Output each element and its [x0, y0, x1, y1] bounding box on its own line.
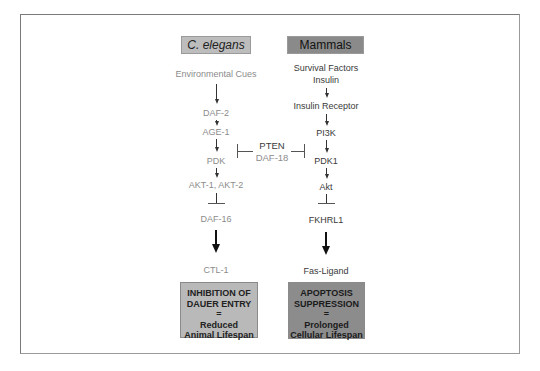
node-age-1: AGE-1 [202, 127, 229, 138]
outcome-line: Cellular Lifespan [289, 330, 364, 341]
node-fkhrl1: FKHRL1 [309, 215, 344, 226]
inhibit-line [216, 193, 217, 203]
node-daf-16: DAF-16 [200, 214, 231, 225]
arrow-down-icon [215, 99, 219, 104]
outcome-line: = [289, 309, 364, 320]
outcome-line: Reduced [181, 320, 257, 331]
inhibitor-daf-18: DAF-18 [256, 152, 289, 163]
arrow-down-icon [215, 121, 219, 126]
node-insulin: Insulin [313, 75, 339, 86]
arrow-down-icon [325, 148, 329, 153]
node-akt-1-akt-2: AKT-1, AKT-2 [189, 180, 244, 191]
node-insulin-receptor: Insulin Receptor [293, 101, 358, 112]
outcome-line: = [181, 309, 257, 320]
node-pdk: PDK [207, 156, 226, 167]
outcome-line: Prolonged [289, 320, 364, 331]
arrow-line [216, 84, 217, 100]
arrow-down-icon [215, 173, 219, 178]
arrow-down-icon [325, 93, 329, 98]
strong-arrow-down-icon [322, 246, 330, 255]
inhibit-bar-icon [318, 203, 335, 204]
node-fas-ligand: Fas-Ligand [303, 266, 348, 277]
outcome-line: DAUER ENTRY [181, 299, 257, 310]
arrow-down-icon [215, 147, 219, 152]
outcome-line: SUPPRESSION [289, 299, 364, 310]
mammals-header: Mammals [287, 36, 364, 54]
arrow-down-icon [325, 121, 329, 126]
outcome-line: APOPTOSIS [289, 288, 364, 299]
node-akt: Akt [319, 182, 332, 193]
inhibitor-pten: PTEN [259, 140, 284, 151]
node-pi3k: PI3K [316, 128, 336, 139]
inhibit-line-left [237, 151, 253, 152]
inhibit-bar-right-icon [304, 144, 305, 158]
c-elegans-header: C. elegans [181, 36, 251, 54]
outcome-box-c-elegans: INHIBITION OF DAUER ENTRY = Reduced Anim… [180, 282, 258, 338]
inhibit-line [326, 194, 327, 203]
node-daf-2: DAF-2 [203, 108, 229, 119]
inhibit-bar-icon [208, 203, 225, 204]
node-pdk1: PDK1 [314, 156, 338, 167]
node-ctl-1: CTL-1 [203, 265, 228, 276]
arrow-down-icon [325, 174, 329, 179]
outcome-line: INHIBITION OF [181, 288, 257, 299]
inhibit-line-right [291, 151, 304, 152]
strong-arrow-down-icon [212, 244, 220, 253]
node-environmental-cues: Environmental Cues [175, 69, 256, 80]
figure-frame [20, 14, 520, 354]
outcome-line: Animal Lifespan [181, 330, 257, 341]
outcome-box-mammals: APOPTOSIS SUPPRESSION = Prolonged Cellul… [288, 282, 365, 339]
node-survival-factors: Survival Factors [294, 63, 359, 74]
